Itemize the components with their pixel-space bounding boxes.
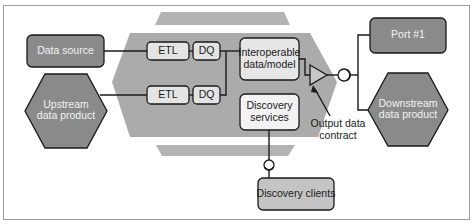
bottom-band — [156, 145, 295, 156]
port-1-node[interactable]: Port #1 — [370, 18, 446, 53]
upstream-label-line2: data product — [37, 109, 95, 121]
discovery-clients-label: Discovery clients — [257, 187, 336, 199]
discovery-label-line2: services — [250, 111, 289, 123]
discovery-services-node[interactable]: Discovery services — [240, 94, 299, 130]
interop-label-line1: Interoperable — [239, 46, 301, 58]
dq-node-1[interactable]: DQ — [193, 42, 220, 60]
etl-node-2[interactable]: ETL — [147, 86, 189, 104]
data-source-node[interactable]: Data source — [27, 35, 104, 67]
downstream-label-line2: data product — [379, 108, 437, 120]
interoperable-data-model-node[interactable]: Interoperable data/model — [239, 38, 301, 80]
discovery-clients-node[interactable]: Discovery clients — [257, 178, 336, 210]
discovery-label-line1: Discovery — [246, 99, 293, 111]
output-interface-icon — [338, 69, 350, 81]
dq-node-2[interactable]: DQ — [193, 86, 220, 104]
diagram-canvas: Data source Upstream data product ETL DQ… — [0, 0, 473, 224]
dq-label-1: DQ — [199, 44, 215, 56]
etl-node-1[interactable]: ETL — [147, 42, 189, 60]
top-band — [155, 12, 290, 25]
dq-label-2: DQ — [199, 88, 215, 100]
contract-label-line1: Output data — [311, 117, 366, 129]
data-source-label: Data source — [37, 44, 94, 56]
etl-label-1: ETL — [158, 44, 177, 56]
discovery-interface-icon — [264, 160, 274, 170]
interop-label-line2: data/model — [244, 58, 296, 70]
port-1-label: Port #1 — [391, 28, 425, 40]
etl-label-2: ETL — [158, 88, 177, 100]
contract-label-line2: contract — [319, 129, 356, 141]
data-product-container — [112, 33, 337, 137]
